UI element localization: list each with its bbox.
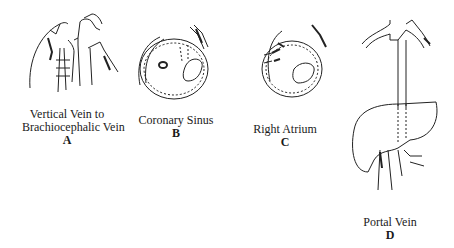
caption-c: Right Atrium C [240,123,330,149]
panel-a-vertical-vein: Vertical Vein to Brachiocephalic Vein A [0,0,120,160]
caption-a: Vertical Vein to Brachiocephalic Vein A [22,108,112,147]
panel-letter-c: C [240,136,330,149]
panel-b-coronary-sinus: Coronary Sinus B [130,25,230,155]
vertical-vein-illustration [0,0,120,100]
panel-d-portal-vein: Portal Vein D [340,0,454,248]
right-atrium-illustration [250,25,340,105]
panel-letter-a: A [22,134,112,147]
panel-letter-b: B [126,127,226,140]
panel-c-right-atrium: Right Atrium C [250,25,340,155]
caption-d: Portal Vein D [340,216,440,242]
portal-vein-illustration [340,0,454,200]
coronary-sinus-illustration [130,25,230,105]
caption-b: Coronary Sinus B [126,114,226,140]
panel-letter-d: D [340,229,440,242]
